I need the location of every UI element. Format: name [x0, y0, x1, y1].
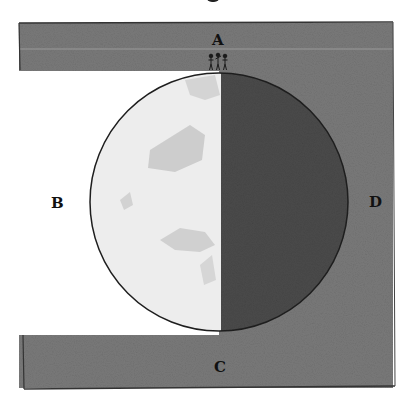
label-b: B [51, 194, 64, 212]
diagram: A B C D [0, 0, 417, 406]
frame-top-edge [19, 22, 393, 23]
frame-right-edge [393, 22, 395, 386]
label-c: C [214, 358, 226, 376]
label-a: A [212, 31, 224, 49]
label-d: D [369, 193, 382, 211]
